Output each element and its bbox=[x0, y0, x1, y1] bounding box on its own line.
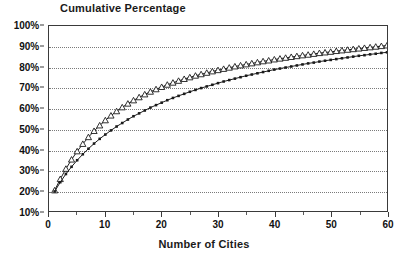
x-tick-mark bbox=[388, 212, 389, 217]
x-tick-label: 30 bbox=[212, 219, 223, 230]
data-point-square bbox=[155, 104, 158, 107]
x-tick-label: 50 bbox=[326, 219, 337, 230]
x-tick-mark bbox=[48, 212, 49, 217]
data-point-square bbox=[98, 138, 101, 141]
data-point-square bbox=[245, 74, 248, 77]
data-point-square bbox=[335, 58, 338, 61]
data-point-square bbox=[346, 56, 349, 59]
y-tick-mark bbox=[40, 191, 44, 192]
data-point-triangle bbox=[147, 89, 153, 95]
data-point-square bbox=[194, 89, 197, 92]
data-point-triangle bbox=[119, 104, 125, 110]
data-point-square bbox=[318, 60, 321, 63]
series-layer bbox=[49, 26, 387, 211]
data-point-square bbox=[76, 159, 79, 162]
data-point-square bbox=[166, 99, 169, 102]
data-point-square bbox=[386, 51, 387, 54]
y-tick-mark bbox=[40, 170, 44, 171]
x-tick-label: 10 bbox=[99, 219, 110, 230]
data-point-square bbox=[53, 190, 56, 193]
x-tick-minor-mark bbox=[246, 212, 247, 215]
x-tick-minor-mark bbox=[190, 212, 191, 215]
y-tick-mark bbox=[40, 25, 44, 26]
data-point-square bbox=[104, 133, 107, 136]
data-point-square bbox=[363, 54, 366, 57]
data-point-square bbox=[369, 53, 372, 56]
data-point-square bbox=[59, 181, 62, 184]
y-tick-mark bbox=[40, 128, 44, 129]
x-tick-mark bbox=[331, 212, 332, 217]
data-point-square bbox=[239, 76, 242, 79]
data-point-square bbox=[160, 101, 163, 104]
y-tick-label: 30% bbox=[19, 165, 39, 176]
data-point-square bbox=[307, 62, 310, 65]
chart-title: Cumulative Percentage bbox=[60, 2, 186, 14]
data-point-square bbox=[358, 55, 361, 58]
y-tick-label: 80% bbox=[19, 61, 39, 72]
data-point-square bbox=[228, 79, 231, 82]
data-point-square bbox=[273, 68, 276, 71]
y-axis: 10%20%30%40%50%60%70%80%90%100% bbox=[0, 25, 44, 212]
data-point-square bbox=[172, 97, 175, 100]
data-point-square bbox=[256, 72, 259, 75]
x-tick-label: 40 bbox=[269, 219, 280, 230]
series-triangle bbox=[52, 42, 387, 192]
data-point-square bbox=[262, 71, 265, 74]
x-tick-label: 0 bbox=[45, 219, 51, 230]
y-tick-mark bbox=[40, 212, 44, 213]
data-point-square bbox=[324, 59, 327, 62]
data-point-square bbox=[251, 73, 254, 76]
data-point-square bbox=[65, 173, 68, 176]
data-point-square bbox=[205, 85, 208, 88]
data-point-square bbox=[380, 52, 383, 55]
data-point-square bbox=[279, 67, 282, 70]
data-point-triangle bbox=[125, 101, 131, 107]
plot-area bbox=[48, 25, 388, 212]
data-point-square bbox=[290, 65, 293, 68]
data-point-square bbox=[177, 95, 180, 98]
data-point-square bbox=[82, 153, 85, 156]
x-tick-mark bbox=[161, 212, 162, 217]
y-tick-label: 20% bbox=[19, 186, 39, 197]
chart-container: Cumulative Percentage 10%20%30%40%50%60%… bbox=[0, 0, 408, 265]
y-tick-label: 90% bbox=[19, 40, 39, 51]
data-point-square bbox=[374, 52, 377, 55]
data-point-square bbox=[70, 166, 73, 169]
data-point-triangle bbox=[114, 108, 120, 114]
data-point-square bbox=[143, 109, 146, 112]
data-point-square bbox=[93, 142, 96, 145]
data-point-square bbox=[217, 82, 220, 85]
data-point-square bbox=[183, 93, 186, 96]
data-point-square bbox=[200, 87, 203, 90]
y-tick-label: 10% bbox=[19, 207, 39, 218]
data-point-square bbox=[267, 70, 270, 73]
data-point-square bbox=[149, 106, 152, 109]
data-point-square bbox=[341, 57, 344, 60]
data-point-square bbox=[301, 63, 304, 66]
data-point-triangle bbox=[153, 86, 159, 92]
data-point-square bbox=[138, 112, 141, 115]
x-axis-title: Number of Cities bbox=[0, 238, 408, 250]
data-point-square bbox=[211, 83, 214, 86]
x-axis-tick-labels: 0102030405060 bbox=[48, 219, 388, 233]
y-tick-label: 70% bbox=[19, 82, 39, 93]
y-tick-mark bbox=[40, 45, 44, 46]
data-point-square bbox=[110, 129, 113, 132]
data-point-square bbox=[329, 59, 332, 62]
data-point-square bbox=[121, 122, 124, 125]
x-tick-mark bbox=[218, 212, 219, 217]
data-point-triangle bbox=[159, 84, 165, 90]
x-axis-ticks bbox=[48, 212, 388, 218]
data-point-square bbox=[87, 147, 90, 150]
data-point-square bbox=[132, 115, 135, 118]
data-point-square bbox=[222, 80, 225, 83]
y-tick-label: 60% bbox=[19, 103, 39, 114]
data-point-square bbox=[352, 55, 355, 58]
data-point-square bbox=[115, 125, 118, 128]
data-point-square bbox=[296, 64, 299, 67]
y-tick-mark bbox=[40, 66, 44, 67]
data-point-square bbox=[284, 66, 287, 69]
x-tick-minor-mark bbox=[360, 212, 361, 215]
data-point-square bbox=[127, 118, 130, 121]
y-tick-label: 100% bbox=[14, 20, 39, 31]
